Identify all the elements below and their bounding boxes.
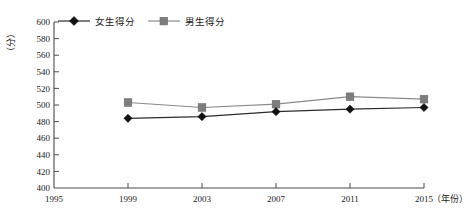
square-marker-icon	[124, 99, 132, 107]
y-tick-label: 560	[37, 50, 51, 60]
y-tick-label: 600	[37, 17, 51, 27]
y-tick-540: 540	[37, 67, 60, 77]
diamond-marker-icon	[420, 103, 428, 111]
y-tick-label: 520	[37, 84, 51, 94]
legend-item-female: 女生得分	[58, 16, 135, 27]
y-tick-400: 400	[37, 183, 51, 193]
legend: 女生得分 男生得分	[58, 16, 225, 27]
x-axis-unit-label: （年份）	[432, 193, 467, 204]
x-tick-label: 1995	[45, 194, 64, 204]
x-tick-2007: 2007	[267, 183, 286, 204]
x-tick-label: 2015	[415, 194, 434, 204]
y-axis-ticks: 600 580 560 540 520 500	[37, 17, 60, 193]
diamond-marker-icon	[70, 17, 79, 26]
legend-label-female: 女生得分	[95, 16, 135, 27]
diamond-marker-icon	[272, 108, 280, 116]
y-tick-460: 460	[37, 133, 60, 143]
y-tick-420: 420	[37, 167, 60, 177]
y-tick-label: 400	[37, 183, 51, 193]
x-tick-2015: 2015	[415, 183, 434, 204]
x-tick-label: 2003	[193, 194, 212, 204]
x-tick-1999: 1999	[119, 183, 138, 204]
x-tick-label: 2007	[267, 194, 286, 204]
y-tick-label: 580	[37, 34, 51, 44]
y-tick-label: 460	[37, 133, 51, 143]
line-chart-figure: （分） 女生得分 男生得分 600	[0, 0, 467, 219]
square-marker-icon	[198, 104, 206, 112]
square-marker-icon	[160, 17, 168, 25]
diamond-marker-icon	[346, 105, 354, 113]
diamond-marker-icon	[198, 113, 206, 121]
legend-item-male: 男生得分	[148, 16, 225, 27]
y-tick-480: 480	[37, 117, 60, 127]
x-tick-label: 2011	[341, 194, 359, 204]
y-axis-unit-label: （分）	[6, 29, 16, 56]
x-tick-2011: 2011	[341, 183, 359, 204]
y-axis-unit-label-group: （分）	[6, 29, 16, 56]
x-tick-1995: 1995	[45, 194, 64, 204]
y-tick-label: 440	[37, 150, 51, 160]
square-marker-icon	[420, 95, 428, 103]
y-tick-560: 560	[37, 50, 60, 60]
y-tick-label: 420	[37, 167, 51, 177]
legend-label-male: 男生得分	[185, 16, 225, 27]
plot-series-layer	[124, 93, 428, 122]
x-tick-2003: 2003	[193, 183, 212, 204]
y-tick-580: 580	[37, 34, 60, 44]
axes	[54, 22, 424, 188]
y-tick-label: 480	[37, 117, 51, 127]
y-tick-500: 500	[37, 100, 60, 110]
square-marker-icon	[346, 93, 354, 101]
square-marker-icon	[272, 100, 280, 108]
y-tick-520: 520	[37, 84, 60, 94]
chart-canvas: （分） 女生得分 男生得分 600	[0, 0, 467, 219]
x-tick-label: 1999	[119, 194, 138, 204]
y-tick-label: 500	[37, 100, 51, 110]
y-tick-600: 600	[37, 17, 60, 27]
y-tick-440: 440	[37, 150, 60, 160]
y-tick-label: 540	[37, 67, 51, 77]
diamond-marker-icon	[124, 114, 132, 122]
x-axis-ticks: 1995 1999 2003 2007 2011 2015 （年	[45, 183, 467, 204]
